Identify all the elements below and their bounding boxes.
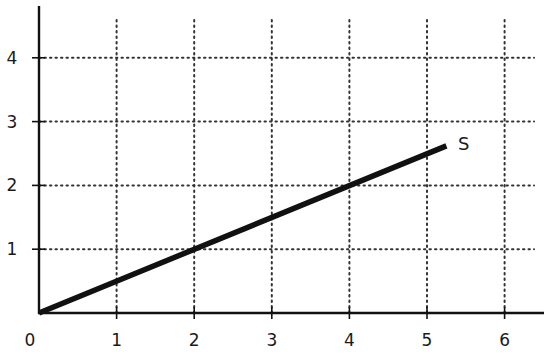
series-layer (39, 146, 446, 313)
axes (38, 6, 544, 314)
series-label-s: S (458, 133, 469, 154)
tick-labels: 12345612340S (7, 48, 510, 350)
x-tick-label: 1 (111, 330, 122, 350)
y-tick-label: 3 (7, 112, 18, 132)
y-tick-label: 4 (7, 48, 18, 68)
x-tick-label: 2 (189, 330, 200, 350)
y-tick-label: 1 (7, 239, 18, 259)
y-tick-label: 2 (7, 175, 18, 195)
grid (39, 20, 534, 313)
axis-ticks (32, 58, 505, 319)
origin-label: 0 (25, 330, 36, 350)
series-line-s (39, 146, 446, 313)
x-tick-label: 5 (422, 330, 433, 350)
x-tick-label: 6 (499, 330, 510, 350)
chart-canvas: 12345612340S (0, 0, 544, 362)
x-tick-label: 4 (344, 330, 355, 350)
x-tick-label: 3 (266, 330, 277, 350)
